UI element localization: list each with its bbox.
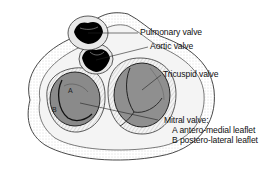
label-pulmonary-valve: Pulmonary valve	[140, 28, 202, 37]
label-mitral-leaflet-a: A antero-medial leaflet	[172, 126, 255, 135]
leaflet-marker-b: B	[52, 106, 57, 113]
label-aortic-valve: Aortic valve	[150, 42, 193, 51]
leaflet-marker-a: A	[68, 87, 73, 94]
heart-valves-illustration	[0, 0, 272, 172]
mitral-valve-drawing	[47, 68, 105, 132]
label-mitral-valve: Mitral valve:	[164, 116, 209, 125]
label-tricuspid-valve: Tricuspid valve	[163, 70, 219, 79]
label-mitral-leaflet-b: B postero-lateral leaflet	[172, 136, 258, 145]
